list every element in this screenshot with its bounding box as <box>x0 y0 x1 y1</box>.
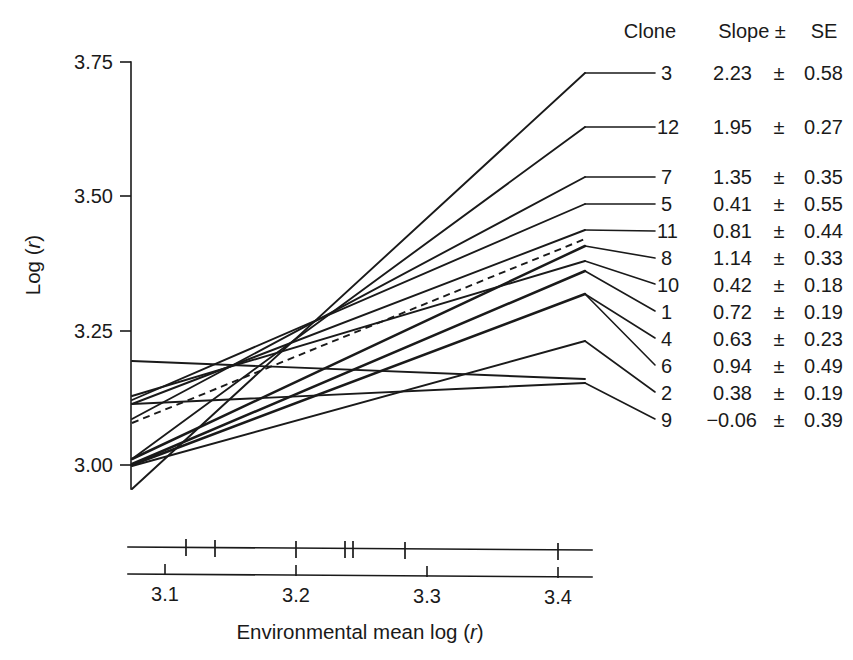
legend-pm-clone-7: ± <box>774 166 785 188</box>
legend-slope-clone-6: 0.94 <box>713 355 752 377</box>
plot-canvas: 3.75 3.50 3.25 3.00 Log (r) <box>0 0 853 660</box>
x-tick-label-3.2: 3.2 <box>282 584 310 606</box>
legend-se-clone-7: 0.35 <box>804 166 843 188</box>
legend-se-clone-5: 0.55 <box>804 193 843 215</box>
regression-line-clone-2 <box>132 383 585 404</box>
x-tick-label-3.1: 3.1 <box>151 583 179 605</box>
leader-clone-11 <box>585 230 655 231</box>
regression-line-clone-11 <box>132 230 585 404</box>
legend-se-clone-9: 0.39 <box>804 409 843 431</box>
y-axis-title: Log (r) <box>21 235 44 295</box>
reaction-norm-figure: 3.75 3.50 3.25 3.00 Log (r) <box>0 0 853 660</box>
legend-slope-clone-10: 0.42 <box>713 274 752 296</box>
legend-row-clone-8: 8 1.14 ± 0.33 <box>661 247 843 269</box>
legend-clone-10: 10 <box>657 274 679 296</box>
legend-slope-clone-12: 1.95 <box>713 116 752 138</box>
legend-slope-clone-2: 0.38 <box>713 382 752 404</box>
x-axis-title: Environmental mean log (r) <box>236 620 483 643</box>
legend-clone-2: 2 <box>661 382 672 404</box>
legend-clone-11: 11 <box>657 220 678 242</box>
legend-se-clone-6: 0.49 <box>804 355 843 377</box>
x-axis: 3.1 3.2 3.3 3.4 Environmental mean log (… <box>128 564 592 643</box>
legend-se-clone-12: 0.27 <box>804 116 843 138</box>
legend-pm-clone-1: ± <box>774 301 785 323</box>
legend-row-clone-3: 3 2.23 ± 0.58 <box>661 62 843 84</box>
legend-pm-clone-2: ± <box>774 382 785 404</box>
y-tick-label-3.50: 3.50 <box>74 185 113 207</box>
legend-pm-clone-10: ± <box>774 274 785 296</box>
y-axis-title-close: ) <box>21 235 44 242</box>
legend-pm-clone-12: ± <box>774 116 785 138</box>
legend-header-slope: Slope ± <box>718 20 786 42</box>
x-axis-rug <box>128 539 592 560</box>
regression-line-clone-8 <box>132 246 585 459</box>
legend-clone-12: 12 <box>657 116 679 138</box>
regression-line-clone-6 <box>132 341 585 466</box>
legend-slope-clone-7: 1.35 <box>713 166 752 188</box>
legend-row-clone-7: 7 1.35 ± 0.35 <box>661 166 843 188</box>
leader-clone-2 <box>585 341 655 392</box>
regression-line-clone-1 <box>132 271 585 464</box>
legend-clone-5: 5 <box>661 193 672 215</box>
regression-line-clone-7 <box>132 177 585 419</box>
legend-clone-1: 1 <box>661 301 672 323</box>
x-axis-title-close: ) <box>477 620 484 643</box>
svg-text:Log (r): Log (r) <box>21 235 44 295</box>
rug-axis-line <box>128 547 592 550</box>
legend-se-clone-11: 0.44 <box>804 220 843 242</box>
legend-clone-7: 7 <box>661 166 672 188</box>
legend-clone-4: 4 <box>661 328 672 350</box>
legend-clone-3: 3 <box>661 62 672 84</box>
legend-se-clone-2: 0.19 <box>804 382 843 404</box>
legend-row-clone-4: 4 0.63 ± 0.23 <box>661 328 843 350</box>
regression-lines <box>132 73 585 489</box>
legend-slope-clone-9: −0.06 <box>706 409 757 431</box>
leader-clone-9 <box>585 383 655 419</box>
legend-pm-clone-3: ± <box>774 62 785 84</box>
legend-slope-clone-1: 0.72 <box>713 301 752 323</box>
legend-slope-clone-8: 1.14 <box>713 247 752 269</box>
leader-clone-8 <box>585 246 655 258</box>
legend-se-clone-10: 0.18 <box>804 274 843 296</box>
legend-row-clone-2: 2 0.38 ± 0.19 <box>661 382 843 404</box>
legend-pm-clone-8: ± <box>774 247 785 269</box>
leader-clone-4 <box>585 294 655 338</box>
legend-row-clone-12: 12 1.95 ± 0.27 <box>657 116 843 138</box>
legend-clone-9: 9 <box>661 409 672 431</box>
reference-line-dashed <box>132 239 585 423</box>
y-tick-label-3.00: 3.00 <box>74 454 113 476</box>
x-axis-title-text: Environmental mean log ( <box>236 620 470 643</box>
y-tick-label-3.25: 3.25 <box>74 320 113 342</box>
legend-row-clone-1: 1 0.72 ± 0.19 <box>661 301 843 323</box>
legend-se-clone-4: 0.23 <box>804 328 843 350</box>
legend-leader-lines <box>585 73 655 419</box>
legend-row-clone-11: 11 0.81 ± 0.44 <box>657 220 843 242</box>
regression-line-clone-12 <box>132 127 585 459</box>
legend-slope-clone-11: 0.81 <box>713 220 752 242</box>
regression-line-clone-4 <box>132 294 585 465</box>
legend-slope-clone-4: 0.63 <box>713 328 752 350</box>
legend-pm-clone-4: ± <box>774 328 785 350</box>
legend-table: Clone Slope ± SE 3 2.23 ± 0.58 12 1.95 ±… <box>624 20 843 431</box>
x-tick-label-3.3: 3.3 <box>413 585 441 607</box>
legend-row-clone-10: 10 0.42 ± 0.18 <box>657 274 843 296</box>
legend-se-clone-1: 0.19 <box>804 301 843 323</box>
legend-pm-clone-6: ± <box>774 355 785 377</box>
legend-slope-clone-3: 2.23 <box>713 62 752 84</box>
y-tick-label-3.75: 3.75 <box>74 51 113 73</box>
x-tick-label-3.4: 3.4 <box>544 586 572 608</box>
y-axis: 3.75 3.50 3.25 3.00 Log (r) <box>21 51 131 489</box>
legend-clone-8: 8 <box>661 247 672 269</box>
legend-slope-clone-5: 0.41 <box>713 193 752 215</box>
leader-clone-10 <box>585 261 655 284</box>
legend-row-clone-6: 6 0.94 ± 0.49 <box>661 355 843 377</box>
legend-header-se: SE <box>811 20 838 42</box>
legend-row-clone-9: 9 −0.06 ± 0.39 <box>661 409 843 431</box>
y-axis-title-text: Log ( <box>21 248 44 295</box>
legend-pm-clone-9: ± <box>774 409 785 431</box>
legend-se-clone-3: 0.58 <box>804 62 843 84</box>
legend-header-clone: Clone <box>624 20 676 42</box>
legend-row-clone-5: 5 0.41 ± 0.55 <box>661 193 843 215</box>
legend-pm-clone-11: ± <box>774 220 785 242</box>
x-axis-line <box>128 574 592 577</box>
